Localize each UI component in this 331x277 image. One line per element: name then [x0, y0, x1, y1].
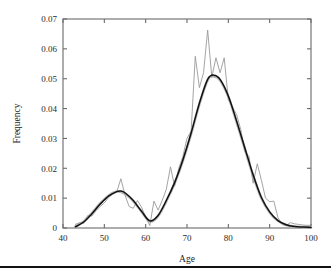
x-tick-label: 50 — [100, 233, 110, 243]
x-tick-label: 40 — [59, 233, 69, 243]
frequency-age-plot: 40506070809010000.010.020.030.040.050.06… — [0, 0, 331, 277]
y-tick-label: 0.07 — [41, 14, 57, 24]
x-tick-label: 70 — [183, 233, 193, 243]
y-tick-label: 0.05 — [41, 74, 57, 84]
x-tick-label: 60 — [141, 233, 151, 243]
y-tick-label: 0 — [53, 223, 58, 233]
x-tick-label: 90 — [265, 233, 275, 243]
y-axis-title: Frequency — [12, 103, 22, 143]
y-tick-label: 0.04 — [41, 104, 57, 114]
y-tick-label: 0.06 — [41, 44, 57, 54]
x-tick-label: 100 — [304, 233, 318, 243]
y-tick-label: 0.03 — [41, 134, 57, 144]
y-tick-label: 0.01 — [41, 193, 57, 203]
x-axis-title: Age — [179, 254, 195, 264]
page-separator-rule — [0, 266, 331, 268]
chart-figure: 40506070809010000.010.020.030.040.050.06… — [0, 0, 331, 277]
x-tick-label: 80 — [224, 233, 234, 243]
y-tick-label: 0.02 — [41, 164, 57, 174]
